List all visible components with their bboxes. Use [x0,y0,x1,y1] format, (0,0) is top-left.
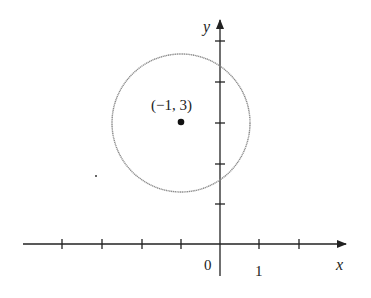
y-axis-label: y [201,18,211,36]
center-point [178,119,185,126]
coordinate-plane: (−1, 3) y x 0 1 [0,0,371,298]
speck [95,175,97,177]
center-label: (−1, 3) [151,97,192,114]
x-axis-label: x [335,256,343,273]
x-tick-label-1: 1 [255,263,263,279]
origin-label: 0 [204,257,212,273]
